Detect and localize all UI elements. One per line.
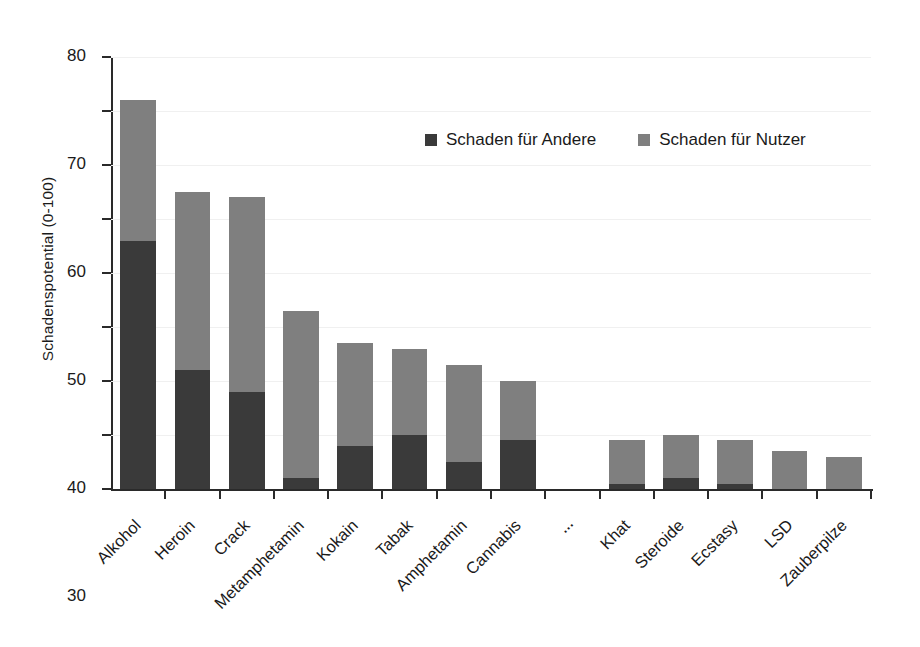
bar-segment-nutzer: [229, 197, 265, 391]
bar-segment-nutzer: [337, 343, 373, 446]
y-axis-tick: 40: [102, 272, 111, 274]
x-axis-tick: [816, 489, 818, 499]
y-axis-tick: 70: [102, 110, 111, 112]
bar-steroide[interactable]: [663, 435, 699, 489]
bar-segment-andere: [609, 484, 645, 489]
legend-label-schaden-fuer-andere: Schaden für Andere: [446, 130, 596, 150]
bar-segment-andere: [500, 440, 536, 489]
bar-segment-nutzer: [446, 365, 482, 462]
x-axis-tick: [599, 489, 601, 499]
y-axis-tick-label: 60: [67, 262, 86, 282]
bar-segment-nutzer: [392, 349, 428, 435]
y-axis-tick-label: 70: [67, 154, 86, 174]
bar-segment-andere: [663, 478, 699, 489]
stacked-bar-chart: Schadenspotential (0-100) 01020304050607…: [0, 0, 920, 647]
x-axis-tick: [707, 489, 709, 499]
bar-segment-nutzer: [826, 457, 862, 489]
x-axis-tick: [653, 489, 655, 499]
bar-segment-nutzer: [120, 100, 156, 240]
bar-zauberpilze[interactable]: [826, 457, 862, 489]
bar-ecstasy[interactable]: [717, 440, 753, 489]
y-axis-tick-label: 40: [67, 478, 86, 498]
bar-segment-andere: [392, 435, 428, 489]
y-axis-tick: 20: [102, 380, 111, 382]
bar-segment-andere: [446, 462, 482, 489]
bar-segment-nutzer: [175, 192, 211, 370]
bar-cannabis[interactable]: [500, 381, 536, 489]
bar-alkohol[interactable]: [120, 100, 156, 489]
x-axis-tick: [327, 489, 329, 499]
bar-lsd[interactable]: [772, 451, 808, 489]
y-axis-tick: 80: [102, 56, 111, 58]
x-axis-tick: [544, 489, 546, 499]
bar-segment-andere: [120, 241, 156, 489]
y-axis-tick-label: 80: [67, 46, 86, 66]
bar-amphetamin[interactable]: [446, 365, 482, 489]
bar-heroin[interactable]: [175, 192, 211, 489]
y-axis-title: Schadenspotential (0-100): [39, 139, 57, 399]
x-axis-tick: [164, 489, 166, 499]
bars-layer: [111, 57, 871, 489]
legend-item-schaden-fuer-nutzer: Schaden für Nutzer: [638, 130, 805, 150]
bar-segment-nutzer: [663, 435, 699, 478]
chart-legend: Schaden für Andere Schaden für Nutzer: [425, 130, 806, 150]
x-axis-tick: [490, 489, 492, 499]
y-axis-tick: 0: [102, 488, 111, 490]
bar-segment-andere: [175, 370, 211, 489]
x-axis-tick: [381, 489, 383, 499]
bar-segment-nutzer: [500, 381, 536, 440]
bar-segment-nutzer: [283, 311, 319, 478]
square-dark-swatch: [425, 134, 437, 146]
y-axis-tick: 30: [102, 326, 111, 328]
y-axis-tick: 50: [102, 218, 111, 220]
bar-segment-nutzer: [609, 440, 645, 483]
bar-tabak[interactable]: [392, 349, 428, 489]
bar-khat[interactable]: [609, 440, 645, 489]
bar-crack[interactable]: [229, 197, 265, 489]
legend-item-schaden-fuer-andere: Schaden für Andere: [425, 130, 596, 150]
x-axis-tick: [761, 489, 763, 499]
plot-area: 01020304050607080: [111, 57, 871, 489]
x-axis-tick: [273, 489, 275, 499]
y-axis-tick-label: 50: [67, 370, 86, 390]
bar-segment-andere: [229, 392, 265, 489]
bar-segment-nutzer: [772, 451, 808, 489]
bar-segment-andere: [717, 484, 753, 489]
y-axis-tick: 60: [102, 164, 111, 166]
x-axis-tick: [436, 489, 438, 499]
x-axis-line: [111, 489, 873, 491]
bar-segment-nutzer: [717, 440, 753, 483]
legend-label-schaden-fuer-nutzer: Schaden für Nutzer: [659, 130, 805, 150]
bar-kokain[interactable]: [337, 343, 373, 489]
x-axis-tick: [219, 489, 221, 499]
square-gray-swatch: [638, 134, 650, 146]
bar-segment-andere: [337, 446, 373, 489]
bar-segment-andere: [283, 478, 319, 489]
y-axis-tick: 10: [102, 434, 111, 436]
bar-metamphetamin[interactable]: [283, 311, 319, 489]
x-axis-tick: [870, 489, 872, 499]
